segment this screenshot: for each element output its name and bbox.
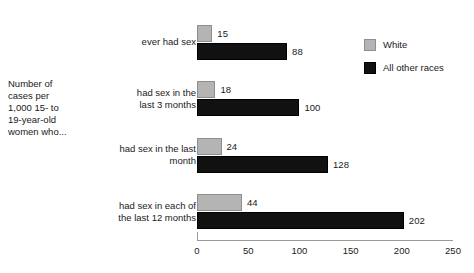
- category-label-each-of-last-12-months: had sex in each of the last 12 months: [46, 200, 196, 224]
- legend-swatch-icon: [364, 39, 376, 51]
- bar-value-label: 18: [220, 81, 231, 98]
- legend-item-all-other-races: All other races: [364, 62, 470, 74]
- bar: [197, 81, 215, 98]
- y-axis-tick-origin: [197, 232, 198, 241]
- legend-label: White: [383, 39, 407, 51]
- bar: [197, 138, 222, 155]
- legend-swatch-icon: [364, 62, 376, 74]
- bar: [197, 25, 212, 42]
- x-axis-tick-label: 0: [182, 245, 212, 256]
- category-label-line: last 3 months: [46, 99, 196, 111]
- bar: [197, 99, 299, 116]
- category-label-last-month: had sex in the last month: [46, 143, 196, 167]
- bar-value-label: 44: [247, 194, 258, 211]
- x-axis-line: [197, 240, 453, 241]
- category-label-ever-had-sex: ever had sex: [46, 36, 196, 48]
- bar-value-label: 202: [409, 212, 425, 229]
- x-axis-tick-label: 200: [387, 245, 417, 256]
- bar-value-label: 100: [304, 99, 320, 116]
- bar: [197, 43, 287, 60]
- category-label-line: the last 12 months: [46, 212, 196, 224]
- category-label-line: ever had sex: [46, 36, 196, 48]
- category-label-line: month: [46, 155, 196, 167]
- category-label-last-3-months: had sex in the last 3 months: [46, 87, 196, 111]
- category-label-line: had sex in the last: [46, 143, 196, 155]
- bar: [197, 212, 404, 229]
- bar-value-label: 15: [217, 25, 228, 42]
- bar: [197, 194, 242, 211]
- bar: [197, 156, 328, 173]
- x-axis-tick-label: 150: [336, 245, 366, 256]
- x-axis-tick-label: 50: [233, 245, 263, 256]
- bar-value-label: 24: [227, 138, 238, 155]
- bar-chart: Number of cases per 1,000 15- to 19-year…: [0, 0, 474, 273]
- x-axis-tick-label: 100: [284, 245, 314, 256]
- legend-label: All other races: [383, 62, 444, 74]
- bar-value-label: 128: [333, 156, 349, 173]
- category-label-line: had sex in the: [46, 87, 196, 99]
- y-axis-caption-line: 19-year-old: [8, 114, 90, 126]
- category-label-line: had sex in each of: [46, 200, 196, 212]
- bar-value-label: 88: [292, 43, 303, 60]
- legend-item-white: White: [364, 39, 470, 51]
- legend: White All other races: [364, 39, 470, 85]
- x-axis-tick-label: 250: [438, 245, 468, 256]
- y-axis-caption-line: women who...: [8, 126, 90, 138]
